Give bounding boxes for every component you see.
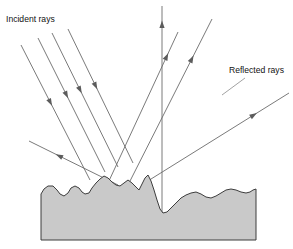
incident-rays-label: Incident rays <box>6 14 55 24</box>
diffuse-reflection-diagram: Incident rays Reflected rays <box>0 0 293 249</box>
incident-ray-1 <box>21 45 90 180</box>
rays-group <box>21 6 289 213</box>
incident-ray-2 <box>38 38 105 172</box>
incident-ray-1-arrowhead-icon <box>46 98 52 106</box>
reflected-ray-shallow-right <box>143 93 289 184</box>
reflected-label-leader <box>222 78 245 95</box>
ray-diagram-canvas: Incident rays Reflected rays <box>0 0 293 249</box>
reflected-ray-left-arrowhead-icon <box>56 154 64 160</box>
incident-ray-3-arrowhead-icon <box>76 85 82 93</box>
reflected-rays-label: Reflected rays <box>229 65 284 75</box>
label-leaders-group <box>222 78 245 95</box>
incident-ray-3 <box>52 33 118 167</box>
reflected-ray-steep-right-arrowhead-icon <box>188 56 194 64</box>
incident-ray-2-arrowhead-icon <box>62 90 68 98</box>
surface-group <box>41 175 256 240</box>
reflected-ray-steep-left-arrowhead-icon <box>163 53 169 61</box>
reflected-ray-steep-right <box>128 19 212 185</box>
incident-ray-4-arrowhead-icon <box>92 81 98 89</box>
reflected-ray-shallow-right-arrowhead-icon <box>249 113 257 119</box>
rough-surface-shape <box>41 175 256 240</box>
reflected-ray-vertical-arrowhead-icon <box>159 20 164 28</box>
incident-ray-4 <box>68 29 133 163</box>
